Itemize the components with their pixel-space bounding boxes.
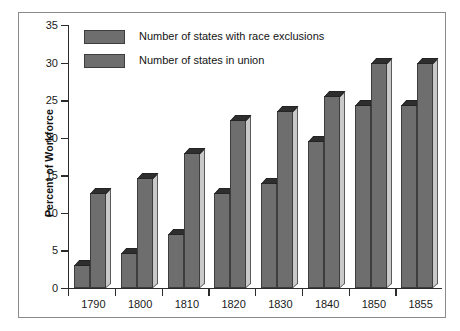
y-tick-mark xyxy=(61,175,69,176)
bar-front-face xyxy=(121,253,137,288)
bar-side-face xyxy=(246,116,251,288)
bar-side-face xyxy=(153,173,158,288)
x-tick-label: 1840 xyxy=(315,299,339,310)
bar-front-face xyxy=(214,193,230,288)
bar xyxy=(261,183,277,288)
y-tick-mark xyxy=(61,250,69,251)
bar xyxy=(324,96,340,288)
bar xyxy=(277,111,293,288)
y-tick-mark xyxy=(61,100,69,101)
bar xyxy=(417,63,433,288)
bar-front-face xyxy=(371,63,387,288)
y-tick-label: 0 xyxy=(18,283,58,294)
bar-front-face xyxy=(261,183,277,288)
x-tick-mark xyxy=(255,289,256,296)
plot-area: Percent of Workforce 05101520253035 1790… xyxy=(0,0,460,331)
y-tick-label: 5 xyxy=(18,245,58,256)
bar xyxy=(308,141,324,288)
legend-item-states-in-union: Number of states in union xyxy=(84,50,384,71)
x-tick-label: 1855 xyxy=(408,299,432,310)
y-tick-label: 25 xyxy=(18,95,58,106)
bar-front-face xyxy=(308,141,324,288)
bar xyxy=(137,178,153,288)
bar xyxy=(371,63,387,288)
legend-swatch-race-exclusions xyxy=(84,30,125,44)
bar xyxy=(355,105,371,288)
x-tick-mark xyxy=(349,289,350,296)
bar xyxy=(121,253,137,288)
bar-side-face xyxy=(200,149,205,288)
bar-front-face xyxy=(324,96,340,288)
x-tick-label: 1830 xyxy=(268,299,292,310)
y-tick-mark xyxy=(61,213,69,214)
x-tick-mark xyxy=(302,289,303,296)
x-tick-label: 1850 xyxy=(362,299,386,310)
bar-front-face xyxy=(401,105,417,288)
bar-front-face xyxy=(90,193,106,288)
bar xyxy=(74,265,90,288)
bar xyxy=(230,120,246,288)
legend-label-states-in-union: Number of states in union xyxy=(139,55,264,66)
bar-front-face xyxy=(168,234,184,288)
y-tick-label: 15 xyxy=(18,170,58,181)
x-tick-mark xyxy=(208,289,209,296)
x-tick-mark xyxy=(68,289,69,296)
legend-item-race-exclusions: Number of states with race exclusions xyxy=(84,26,384,47)
bar xyxy=(184,153,200,288)
legend-swatch-states-in-union xyxy=(84,54,125,68)
bar-front-face xyxy=(355,105,371,288)
y-tick-label: 30 xyxy=(18,57,58,68)
bar-side-face xyxy=(433,58,438,288)
bar-front-face xyxy=(137,178,153,288)
y-tick-label: 10 xyxy=(18,207,58,218)
chart-legend: Number of states with race exclusions Nu… xyxy=(84,26,384,74)
y-axis-line xyxy=(68,25,69,289)
legend-label-race-exclusions: Number of states with race exclusions xyxy=(139,31,324,42)
bar xyxy=(214,193,230,288)
x-tick-label: 1800 xyxy=(128,299,152,310)
bar-side-face xyxy=(106,188,111,288)
y-tick-mark xyxy=(61,63,69,64)
y-tick-label: 35 xyxy=(18,20,58,31)
bar-side-face xyxy=(293,106,298,288)
bar-front-face xyxy=(184,153,200,288)
x-tick-label: 1820 xyxy=(221,299,245,310)
y-tick-mark xyxy=(61,138,69,139)
bar-side-face xyxy=(387,58,392,288)
bar xyxy=(168,234,184,288)
bar-front-face xyxy=(230,120,246,288)
bar-side-face xyxy=(340,92,345,288)
y-tick-label: 20 xyxy=(18,132,58,143)
x-tick-label: 1790 xyxy=(81,299,105,310)
x-tick-label: 1810 xyxy=(175,299,199,310)
x-tick-mark xyxy=(115,289,116,296)
x-tick-mark xyxy=(395,289,396,296)
bar xyxy=(401,105,417,288)
x-tick-mark xyxy=(162,289,163,296)
bar-front-face xyxy=(417,63,433,288)
y-tick-mark xyxy=(61,25,69,26)
bar-front-face xyxy=(277,111,293,288)
bar-front-face xyxy=(74,265,90,288)
chart-figure: Percent of Workforce 05101520253035 1790… xyxy=(0,0,460,331)
bar xyxy=(90,193,106,288)
